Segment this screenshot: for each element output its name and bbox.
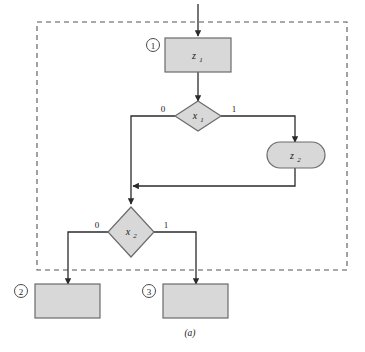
edge-x1-branch-0 [131,116,175,204]
node-x2 [108,207,154,257]
node-z1-label: z [191,50,196,61]
edge-label-x1-right: 1 [232,104,237,114]
edge-label-x1-left: 0 [161,104,166,114]
edge-x2-branch-0 [68,232,108,284]
marker-label-2: 2 [19,287,24,297]
node-x1-label: x [192,110,198,121]
edge-z2-to-merge [133,168,295,186]
node-out2 [35,284,100,318]
node-z1-subscript: 1 [199,56,203,64]
edge-x1-branch-1 [221,116,295,142]
flowchart-canvas: z 1 1 x 1 0 1 z 2 x 2 0 1 2 3 (a) [0,0,365,352]
flowchart-figure: z 1 1 x 1 0 1 z 2 x 2 0 1 2 3 (a) [0,0,365,352]
edge-x2-branch-1 [154,232,196,284]
edge-label-x2-right: 1 [164,220,169,230]
node-out3 [163,284,228,318]
node-x2-subscript: 2 [133,232,137,240]
node-z1 [165,38,231,72]
node-x2-label: x [125,226,131,237]
node-z2 [267,142,325,168]
node-x1 [175,101,221,131]
node-z2-label: z [289,150,294,161]
marker-label-1: 1 [151,41,156,51]
edge-label-x2-left: 0 [95,220,100,230]
figure-caption: (a) [184,328,195,339]
node-z2-subscript: 2 [297,156,301,164]
node-x1-subscript: 1 [200,116,204,124]
marker-label-3: 3 [147,287,152,297]
